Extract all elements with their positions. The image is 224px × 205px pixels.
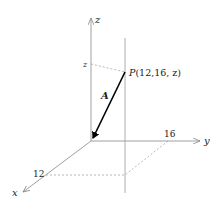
coordinate-diagram: z y x z 16 12 P(12,16, z) A [0, 0, 224, 205]
z-axis-label: z [94, 14, 101, 25]
point-p-coords: (12,16, z) [135, 67, 181, 78]
point-p-label: P(12,16, z) [128, 67, 181, 78]
y-projection-dashed [125, 141, 168, 175]
x-axis [23, 141, 91, 192]
x-axis-label: x [12, 187, 18, 198]
x-tick-label: 12 [33, 169, 44, 179]
y-tick-label: 16 [164, 129, 176, 139]
vector-a [93, 72, 125, 138]
z-tick-label: z [82, 60, 88, 69]
vector-a-label: A [100, 90, 109, 101]
z-projection-dashed [91, 64, 125, 72]
y-axis-label: y [203, 135, 210, 146]
